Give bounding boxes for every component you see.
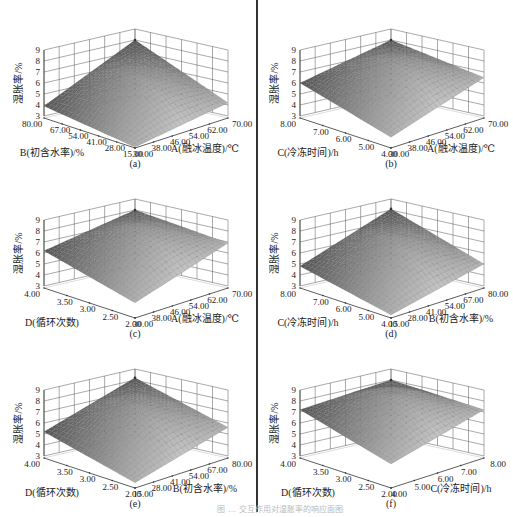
svg-text:9: 9: [36, 215, 41, 225]
svg-text:D(循环次数): D(循环次数): [25, 486, 79, 499]
svg-text:4: 4: [36, 440, 41, 450]
svg-text:6: 6: [36, 248, 41, 258]
svg-text:4.00: 4.00: [24, 459, 40, 469]
svg-text:湿胀率/%: 湿胀率/%: [12, 62, 24, 103]
svg-text:湿胀率/%: 湿胀率/%: [12, 232, 24, 273]
svg-text:C(冷冻时间)/h: C(冷冻时间)/h: [277, 146, 338, 159]
svg-text:7: 7: [36, 407, 41, 417]
svg-text:(b): (b): [385, 158, 397, 170]
svg-text:湿胀率/%: 湿胀率/%: [268, 402, 280, 443]
svg-text:80.00: 80.00: [232, 459, 253, 469]
svg-text:6: 6: [292, 418, 297, 428]
svg-text:8.00: 8.00: [280, 119, 296, 129]
svg-text:9: 9: [292, 45, 297, 55]
surface-plot-c: 3456789湿胀率/%4.003.503.002.502.0030.0038.…: [0, 170, 256, 340]
svg-text:A(融冰温度)/℃: A(融冰温度)/℃: [171, 312, 239, 325]
svg-text:D(循环次数): D(循环次数): [281, 486, 335, 499]
svg-text:4.00: 4.00: [280, 459, 296, 469]
svg-text:6.00: 6.00: [336, 134, 352, 144]
svg-text:8: 8: [36, 56, 41, 66]
svg-text:(a): (a): [129, 158, 140, 170]
svg-text:B(初含水率)/%: B(初含水率)/%: [429, 312, 493, 325]
svg-text:7: 7: [36, 67, 41, 77]
svg-text:8: 8: [292, 226, 297, 236]
svg-text:5: 5: [36, 429, 41, 439]
svg-text:3.00: 3.00: [336, 474, 352, 484]
svg-text:4: 4: [292, 440, 297, 450]
svg-text:5: 5: [36, 89, 41, 99]
svg-text:C(冷冻时间)/h: C(冷冻时间)/h: [430, 482, 491, 495]
svg-text:7: 7: [292, 67, 297, 77]
svg-text:6: 6: [292, 78, 297, 88]
svg-text:2.50: 2.50: [102, 482, 118, 492]
svg-text:8: 8: [292, 56, 297, 66]
svg-text:7: 7: [292, 237, 297, 247]
svg-text:4: 4: [36, 270, 41, 280]
svg-text:80.00: 80.00: [22, 119, 43, 129]
svg-text:5: 5: [292, 429, 297, 439]
svg-text:7.00: 7.00: [313, 127, 329, 137]
svg-text:(c): (c): [129, 328, 140, 340]
svg-text:4: 4: [36, 100, 41, 110]
svg-text:3.50: 3.50: [57, 467, 73, 477]
svg-text:67.00: 67.00: [207, 465, 228, 475]
svg-text:9: 9: [292, 385, 297, 395]
svg-text:B(初含水率)/%: B(初含水率)/%: [20, 146, 84, 159]
svg-text:3.50: 3.50: [313, 467, 329, 477]
svg-text:70.00: 70.00: [488, 119, 509, 129]
surface-plot-d: 3456789湿胀率/%8.007.006.005.004.0015.0028.…: [256, 170, 512, 340]
svg-text:7.00: 7.00: [313, 297, 329, 307]
svg-text:5.00: 5.00: [414, 482, 430, 492]
svg-text:2.50: 2.50: [102, 312, 118, 322]
svg-text:5: 5: [292, 89, 297, 99]
svg-text:3.50: 3.50: [57, 297, 73, 307]
svg-text:6.00: 6.00: [336, 304, 352, 314]
surface-plot-f: 3456789湿胀率/%4.003.503.002.502.004.005.00…: [256, 340, 512, 510]
svg-text:8: 8: [36, 226, 41, 236]
svg-text:70.00: 70.00: [232, 119, 253, 129]
svg-text:C(冷冻时间)/h: C(冷冻时间)/h: [277, 316, 338, 329]
svg-text:8: 8: [292, 396, 297, 406]
svg-text:9: 9: [36, 45, 41, 55]
svg-text:(e): (e): [129, 498, 140, 510]
svg-text:7: 7: [36, 237, 41, 247]
svg-text:(d): (d): [385, 328, 397, 340]
svg-text:7.00: 7.00: [461, 467, 477, 477]
svg-text:67.00: 67.00: [463, 295, 484, 305]
svg-text:3.00: 3.00: [80, 474, 96, 484]
figure-caption: 图 … 交互作用对湿胀率的响应面图: [150, 503, 410, 514]
svg-text:4: 4: [292, 100, 297, 110]
svg-text:湿胀率/%: 湿胀率/%: [12, 402, 24, 443]
surface-plot-a: 3456789湿胀率/%80.0067.0054.0041.0028.0015.…: [0, 0, 256, 170]
svg-text:5: 5: [292, 259, 297, 269]
surface-plot-b: 3456789湿胀率/%8.007.006.005.004.0030.0038.…: [256, 0, 512, 170]
svg-text:A(融冰温度)/℃: A(融冰温度)/℃: [427, 142, 495, 155]
svg-text:4: 4: [292, 270, 297, 280]
svg-text:8.00: 8.00: [490, 459, 506, 469]
svg-text:8: 8: [36, 396, 41, 406]
svg-text:4.00: 4.00: [24, 289, 40, 299]
svg-text:5.00: 5.00: [358, 142, 374, 152]
svg-text:B(初含水率)/%: B(初含水率)/%: [173, 482, 237, 495]
svg-text:6: 6: [36, 78, 41, 88]
svg-text:6: 6: [36, 418, 41, 428]
svg-text:5.00: 5.00: [358, 312, 374, 322]
svg-text:9: 9: [36, 385, 41, 395]
svg-text:D(循环次数): D(循环次数): [25, 316, 79, 329]
svg-text:3.00: 3.00: [80, 304, 96, 314]
svg-text:62.00: 62.00: [207, 125, 228, 135]
svg-text:80.00: 80.00: [488, 289, 509, 299]
svg-text:A(融冰温度)/℃: A(融冰温度)/℃: [171, 142, 239, 155]
svg-text:70.00: 70.00: [232, 289, 253, 299]
svg-text:湿胀率/%: 湿胀率/%: [268, 232, 280, 273]
svg-text:9: 9: [292, 215, 297, 225]
svg-text:6: 6: [292, 248, 297, 258]
svg-text:62.00: 62.00: [463, 125, 484, 135]
svg-text:62.00: 62.00: [207, 295, 228, 305]
svg-text:8.00: 8.00: [280, 289, 296, 299]
svg-text:湿胀率/%: 湿胀率/%: [268, 62, 280, 103]
svg-text:7: 7: [292, 407, 297, 417]
surface-plot-e: 3456789湿胀率/%4.003.503.002.502.0015.0028.…: [0, 340, 256, 510]
svg-text:2.50: 2.50: [358, 482, 374, 492]
svg-text:5: 5: [36, 259, 41, 269]
